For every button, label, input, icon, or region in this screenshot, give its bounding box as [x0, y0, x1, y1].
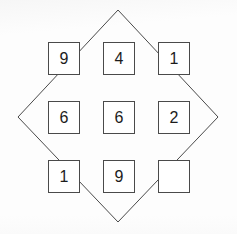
cell-r1-c2[interactable]: 2	[158, 101, 190, 134]
cell-r1-c0[interactable]: 6	[48, 101, 80, 134]
cell-r0-c0[interactable]: 9	[48, 42, 80, 75]
number-cell-grid: 94166219	[48, 42, 190, 193]
cell-r1-c1[interactable]: 6	[103, 101, 135, 134]
diamond-number-grid-puzzle: 94166219	[0, 0, 237, 234]
cell-r0-c1[interactable]: 4	[103, 42, 135, 75]
cell-r2-c0[interactable]: 1	[48, 160, 80, 193]
cell-r2-c1[interactable]: 9	[103, 160, 135, 193]
cell-r0-c2[interactable]: 1	[158, 42, 190, 75]
cell-r2-c2[interactable]	[158, 160, 190, 193]
